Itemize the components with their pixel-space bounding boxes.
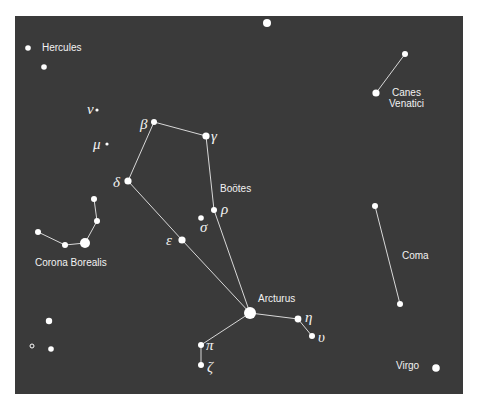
star-cv1	[402, 51, 408, 57]
label-canes: Canes	[392, 87, 421, 98]
star-eta	[295, 316, 302, 323]
label-venatici: Venatici	[389, 98, 424, 109]
star-coma2	[397, 301, 403, 307]
star-s2	[48, 346, 54, 352]
star-herc1	[25, 45, 31, 51]
star-map: Hercules Canes Venatici Boötes Corona Bo…	[0, 0, 479, 411]
greek-mu: μ	[92, 136, 101, 152]
star-nu	[95, 108, 98, 111]
label-virgo: Virgo	[396, 360, 420, 371]
greek-upsilon: υ	[318, 329, 325, 345]
star-cv2	[372, 89, 379, 96]
star-virgo	[432, 364, 440, 372]
star-coma1	[372, 203, 378, 209]
star-pi	[198, 342, 204, 348]
greek-zeta: ζ	[207, 359, 214, 375]
star-gamma	[202, 132, 209, 139]
label-bootes: Boötes	[220, 183, 251, 194]
label-hercules: Hercules	[42, 42, 81, 53]
star-cb2	[94, 218, 100, 224]
star-herc2	[41, 64, 47, 70]
star-cb4	[62, 242, 68, 248]
label-corona-borealis: Corona Borealis	[35, 257, 107, 268]
star-cb5	[35, 229, 41, 235]
sky-panel	[15, 16, 463, 394]
star-beta	[151, 119, 157, 125]
star-cb1	[91, 196, 97, 202]
star-rho	[211, 207, 217, 213]
star-top	[263, 19, 271, 27]
star-arcturus	[244, 307, 256, 319]
greek-epsilon: ε	[166, 232, 172, 248]
star-cb3	[80, 238, 90, 248]
star-mu	[105, 142, 108, 145]
star-delta	[124, 177, 131, 184]
greek-eta: η	[305, 309, 312, 325]
greek-rho: ρ	[220, 201, 228, 217]
star-epsilon	[178, 236, 185, 243]
greek-delta: δ	[113, 174, 121, 190]
label-arcturus: Arcturus	[258, 293, 295, 304]
greek-beta: β	[139, 116, 148, 132]
star-s1	[46, 318, 52, 324]
greek-pi: π	[206, 337, 214, 353]
greek-nu: ν	[87, 101, 94, 117]
star-upsilon	[309, 333, 315, 339]
greek-sigma: σ	[200, 219, 208, 235]
label-coma: Coma	[402, 250, 429, 261]
star-zeta	[198, 362, 204, 368]
